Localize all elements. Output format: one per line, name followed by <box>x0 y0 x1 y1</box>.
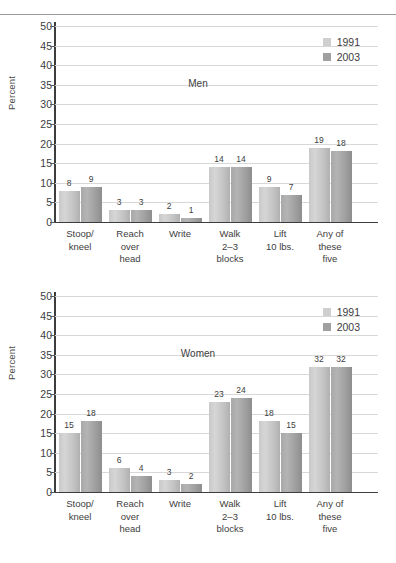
y-tick-mark <box>50 492 55 493</box>
bar-1991-3[interactable]: 23 <box>209 296 230 492</box>
x-axis-label-5: Any ofthesefive <box>305 228 355 266</box>
legend-item-2003[interactable]: 2003 <box>323 51 360 63</box>
bar-value-label: 2 <box>167 201 172 211</box>
y-tick-mark <box>50 453 55 454</box>
y-tick-15: 15 <box>22 157 52 169</box>
bar-group: 64 <box>105 296 155 492</box>
bar-group: 2324 <box>205 296 255 492</box>
bar-group: 97 <box>255 26 305 222</box>
bar-rect: 15 <box>59 433 80 492</box>
bar-value-label: 15 <box>64 420 73 430</box>
bar-2003-2[interactable]: 1 <box>181 26 202 222</box>
y-tick-mark <box>50 414 55 415</box>
y-tick-mark <box>50 374 55 375</box>
bar-value-label: 1 <box>189 205 194 215</box>
bar-1991-1[interactable]: 3 <box>109 26 130 222</box>
bar-2003-2[interactable]: 2 <box>181 296 202 492</box>
bar-value-label: 4 <box>139 463 144 473</box>
y-tick-0: 0 <box>22 486 52 498</box>
x-axis-label-1: Reachoverhead <box>105 498 155 536</box>
bar-2003-4[interactable]: 7 <box>281 26 302 222</box>
bar-1991-2[interactable]: 3 <box>159 296 180 492</box>
bar-2003-0[interactable]: 9 <box>81 26 102 222</box>
y-tick-mark <box>50 85 55 86</box>
bar-2003-3[interactable]: 24 <box>231 296 252 492</box>
bar-rect: 9 <box>81 187 102 222</box>
bar-value-label: 2 <box>189 471 194 481</box>
legend-item-1991[interactable]: 1991 <box>323 306 360 318</box>
y-axis-tick-labels: 50454035302520151050 <box>22 26 52 222</box>
x-axis-labels-men: Stoop/kneelReachoverheadWriteWalk2–3bloc… <box>55 228 355 266</box>
y-tick-mark <box>50 183 55 184</box>
y-tick-mark <box>50 26 55 27</box>
bar-rect: 15 <box>281 433 302 492</box>
x-axis-line <box>55 492 378 493</box>
x-axis-label-3: Walk2–3blocks <box>205 228 255 266</box>
bar-2003-1[interactable]: 4 <box>131 296 152 492</box>
y-axis-tick-labels: 50454035302520151050 <box>22 296 52 492</box>
bar-2003-4[interactable]: 15 <box>281 296 302 492</box>
x-axis-label-4: Lift10 lbs. <box>255 228 305 266</box>
bar-groups-men: 8933211414971918 <box>55 26 355 222</box>
bar-rect: 3 <box>159 480 180 492</box>
bar-1991-3[interactable]: 14 <box>209 26 230 222</box>
bar-2003-0[interactable]: 18 <box>81 296 102 492</box>
bar-value-label: 3 <box>167 467 172 477</box>
bar-1991-4[interactable]: 18 <box>259 296 280 492</box>
bar-value-label: 9 <box>89 174 94 184</box>
x-axis-label-2: Write <box>155 228 205 266</box>
bar-2003-1[interactable]: 3 <box>131 26 152 222</box>
legend-swatch-icon-1991 <box>323 38 331 46</box>
y-tick-25: 25 <box>22 388 52 400</box>
bar-value-label: 18 <box>264 408 273 418</box>
bar-rect: 1 <box>181 218 202 222</box>
x-axis-label-0: Stoop/kneel <box>55 498 105 536</box>
bar-rect: 9 <box>259 187 280 222</box>
bar-rect: 2 <box>181 484 202 492</box>
bar-value-label: 3 <box>117 197 122 207</box>
y-tick-mark <box>50 355 55 356</box>
legend-item-1991[interactable]: 1991 <box>323 36 360 48</box>
bar-group: 89 <box>55 26 105 222</box>
bar-group: 1414 <box>205 26 255 222</box>
bar-rect: 3 <box>109 210 130 222</box>
x-axis-label-0: Stoop/kneel <box>55 228 105 266</box>
x-axis-label-3: Walk2–3blocks <box>205 498 255 536</box>
bar-rect: 6 <box>109 468 130 492</box>
legend-label-2003: 2003 <box>337 321 360 333</box>
bar-rect: 18 <box>331 151 352 222</box>
legend-men: 1991 2003 <box>323 36 360 63</box>
bar-rect: 14 <box>209 167 230 222</box>
bar-value-label: 3 <box>139 197 144 207</box>
bar-1991-0[interactable]: 15 <box>59 296 80 492</box>
bar-1991-2[interactable]: 2 <box>159 26 180 222</box>
legend-label-1991: 1991 <box>337 306 360 318</box>
x-axis-label-5: Any ofthesefive <box>305 498 355 536</box>
y-tick-45: 45 <box>22 310 52 322</box>
y-tick-mark <box>50 46 55 47</box>
y-tick-50: 50 <box>22 20 52 32</box>
legend-swatch-icon-2003 <box>323 53 331 61</box>
y-tick-mark <box>50 202 55 203</box>
top-divider-rule <box>0 14 396 15</box>
bar-rect: 4 <box>131 476 152 492</box>
legend-item-2003[interactable]: 2003 <box>323 321 360 333</box>
bar-2003-3[interactable]: 14 <box>231 26 252 222</box>
bar-rect: 19 <box>309 148 330 222</box>
x-axis-label-2: Write <box>155 498 205 536</box>
legend-swatch-icon-2003 <box>323 323 331 331</box>
bar-rect: 8 <box>59 191 80 222</box>
bar-rect: 2 <box>159 214 180 222</box>
legend-label-1991: 1991 <box>337 36 360 48</box>
bar-1991-1[interactable]: 6 <box>109 296 130 492</box>
chart-panel-men: Percent 50454035302520151050 89332114149… <box>0 22 396 284</box>
y-tick-mark <box>50 163 55 164</box>
y-tick-mark <box>50 433 55 434</box>
bar-value-label: 14 <box>214 154 223 164</box>
legend-women: 1991 2003 <box>323 306 360 333</box>
y-tick-5: 5 <box>22 466 52 478</box>
bar-rect: 23 <box>209 402 230 492</box>
bar-1991-0[interactable]: 8 <box>59 26 80 222</box>
bar-rect: 32 <box>309 367 330 492</box>
bar-1991-4[interactable]: 9 <box>259 26 280 222</box>
